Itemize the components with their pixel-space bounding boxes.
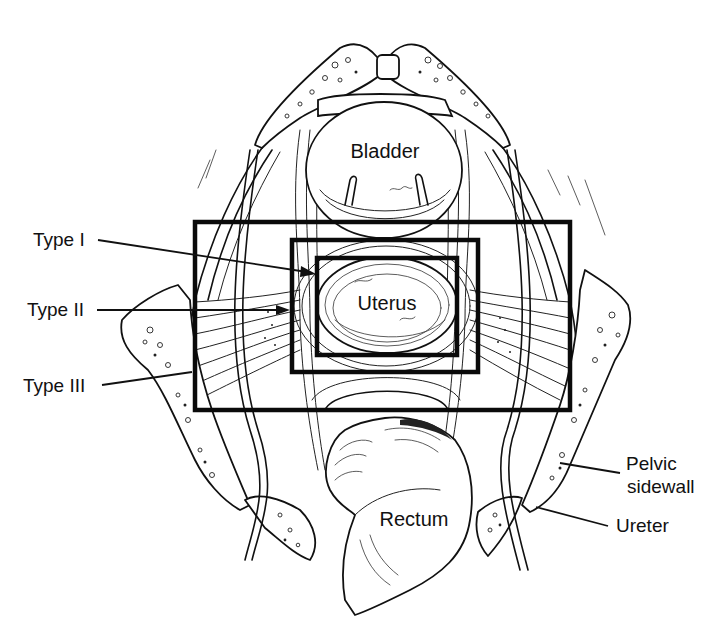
label-type-3: Type III: [23, 375, 85, 397]
label-bladder: Bladder: [351, 140, 420, 163]
pubic-symphysis: [377, 55, 399, 79]
label-pelvic-sidewall-line1: Pelvic: [626, 453, 677, 475]
pouch: [312, 378, 460, 411]
label-pelvic-sidewall-line2: sidewall: [627, 476, 695, 498]
label-type-2: Type II: [27, 299, 84, 321]
label-rectum: Rectum: [380, 508, 449, 531]
right-sidewall-bone: [522, 270, 630, 512]
left-sidewall-bone: [121, 285, 250, 510]
label-type-1: Type I: [33, 229, 85, 251]
label-uterus: Uterus: [358, 292, 417, 315]
bladder: [306, 94, 462, 238]
label-ureter: Ureter: [616, 515, 669, 537]
pelvic-anatomy-diagram: [0, 0, 720, 631]
